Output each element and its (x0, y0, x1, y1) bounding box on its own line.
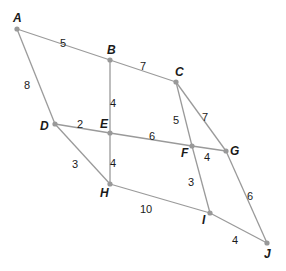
edge-i-j (210, 213, 267, 243)
vertex-label-g: G (230, 144, 239, 158)
vertex-labels-layer: ABCDEFGHIJ (12, 11, 271, 261)
vertex-b (107, 57, 112, 62)
edge-weight-d-e: 2 (77, 118, 83, 130)
vertex-label-i: I (202, 213, 206, 227)
vertex-label-f: F (181, 146, 189, 160)
vertex-c (173, 79, 178, 84)
edge-weight-f-i: 3 (188, 176, 194, 188)
vertex-g (223, 148, 228, 153)
edge-weight-a-d: 8 (24, 79, 30, 91)
edge-weight-b-c: 7 (140, 60, 146, 72)
weighted-graph: 5784264573431064 ABCDEFGHIJ (0, 0, 286, 271)
edge-h-i (110, 184, 210, 213)
edge-weight-g-j: 6 (247, 190, 253, 202)
edge-weight-d-h: 3 (72, 158, 78, 170)
vertex-a (14, 26, 19, 31)
edge-a-d (17, 29, 55, 124)
vertex-label-e: E (100, 117, 109, 131)
vertex-f (189, 143, 194, 148)
vertex-e (107, 130, 112, 135)
edge-weight-c-g: 7 (202, 111, 208, 123)
edge-weight-b-e: 4 (110, 97, 116, 109)
vertex-j (264, 240, 269, 245)
vertex-label-c: C (175, 65, 184, 79)
edge-weight-f-g: 4 (204, 151, 210, 163)
vertex-d (52, 121, 57, 126)
edge-weight-c-f: 5 (173, 114, 179, 126)
edge-weight-e-f: 6 (149, 130, 155, 142)
vertex-label-d: D (40, 119, 49, 133)
edge-weight-a-b: 5 (60, 37, 66, 49)
edge-weight-h-i: 10 (140, 203, 152, 215)
vertex-label-b: B (107, 43, 116, 57)
edge-weight-e-h: 4 (110, 157, 116, 169)
vertex-label-h: H (100, 186, 109, 200)
edge-weight-i-j: 4 (232, 234, 238, 246)
edge-d-h (55, 124, 110, 184)
vertex-i (207, 210, 212, 215)
vertex-label-j: J (264, 247, 271, 261)
vertex-label-a: A (12, 11, 22, 25)
